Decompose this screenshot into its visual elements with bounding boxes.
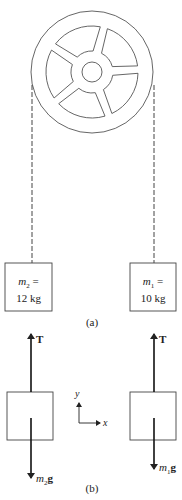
- pulley-cutout: [59, 88, 105, 118]
- fbd-block-m2: [7, 392, 53, 440]
- weight-label-m1: m1g: [159, 461, 176, 478]
- weight-label-m2: m2g: [36, 472, 53, 489]
- pulley-axle: [82, 62, 102, 82]
- mass1-eq: =: [154, 275, 163, 287]
- mass2-label: m2 = 12 kg: [5, 275, 52, 304]
- x-axis-label: x: [103, 417, 107, 429]
- mass1-label: m1 = 10 kg: [130, 275, 176, 304]
- weight1-g: g: [170, 461, 176, 473]
- mass1-value: 10 kg: [141, 292, 166, 304]
- weight2-symbol: m: [36, 472, 44, 484]
- mass1-symbol: m: [143, 275, 151, 287]
- diagram-canvas: [0, 0, 182, 500]
- pulley-cutout: [56, 26, 101, 57]
- pulley-cutout: [102, 29, 138, 67]
- weight1-symbol: m: [159, 461, 167, 473]
- pulley-spoke-cutouts: [46, 26, 138, 118]
- caption-a: (a): [80, 316, 104, 328]
- mass2-value: 12 kg: [16, 292, 41, 304]
- mass2-eq: =: [30, 275, 39, 287]
- caption-b: (b): [80, 482, 104, 494]
- pulley: [31, 11, 153, 133]
- weight2-g: g: [47, 472, 53, 484]
- tension-label-right: T: [159, 333, 166, 345]
- fbd-block-m1: [130, 392, 176, 440]
- pulley-cutout: [46, 50, 73, 98]
- pulley-rim: [31, 11, 153, 133]
- y-axis-label: y: [75, 388, 79, 400]
- pulley-cutout: [103, 73, 138, 113]
- tension-label-left: T: [36, 333, 43, 345]
